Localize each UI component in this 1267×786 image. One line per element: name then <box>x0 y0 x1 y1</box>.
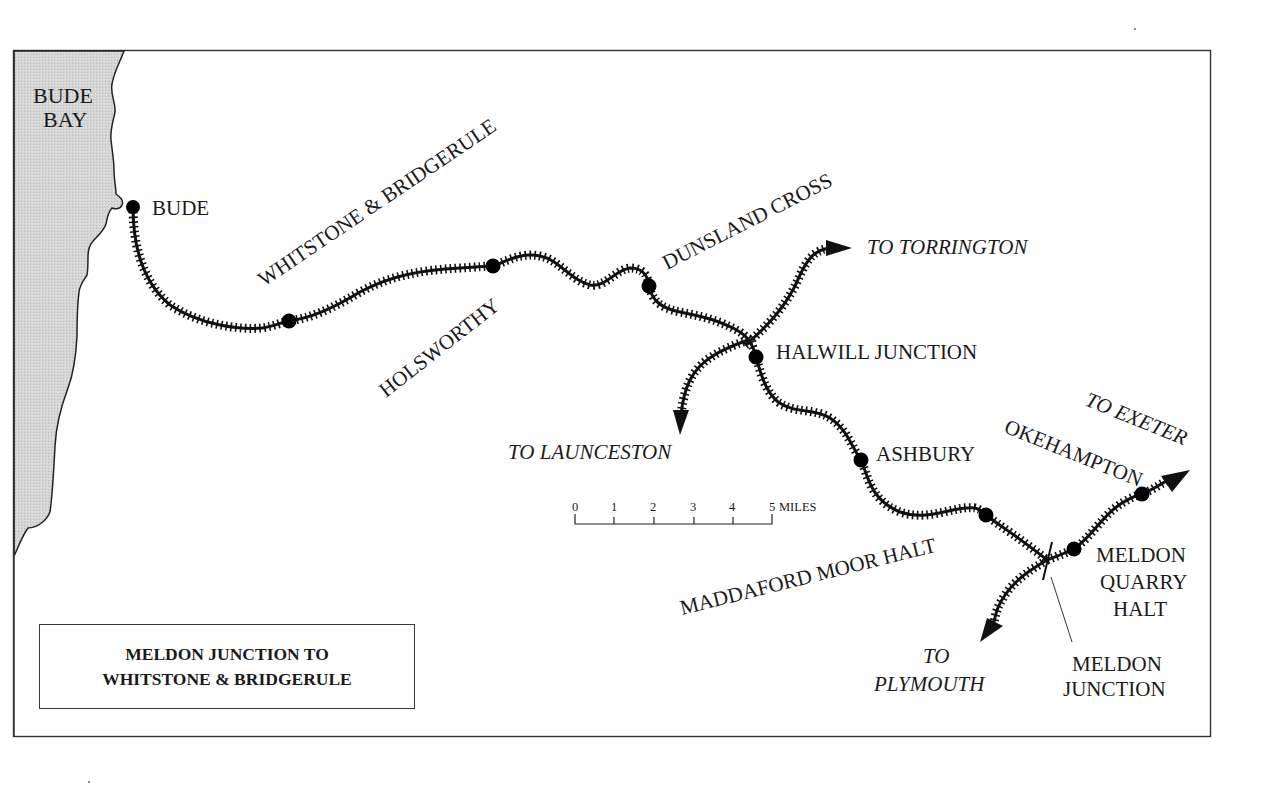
label-meldon-junction-line1: MELDON <box>1072 652 1162 676</box>
scale-tick-1: 1 <box>611 500 617 514</box>
station-dot-maddaford-moor-halt[interactable] <box>979 508 994 523</box>
station-dot-meldon-quarry-halt[interactable] <box>1067 542 1082 557</box>
label-ashbury: ASHBURY <box>876 442 975 466</box>
label-meldon-quarry-halt-line3: HALT <box>1113 597 1167 621</box>
label-to-plymouth-line1: TO <box>923 644 949 668</box>
station-dot-whitstone-bridgerule[interactable] <box>282 314 297 329</box>
station-dot-bude[interactable] <box>126 200 140 214</box>
scale-tick-0: 0 <box>572 500 578 514</box>
map-title-line1: MELDON JUNCTION TO <box>125 642 329 667</box>
bude-bay-label-line2: BAY <box>43 107 88 132</box>
scan-speck <box>88 781 90 783</box>
label-to-plymouth-line2: PLYMOUTH <box>873 672 986 696</box>
label-to-torrington: TO TORRINGTON <box>867 235 1028 259</box>
label-halwill-junction: HALWILL JUNCTION <box>776 340 977 364</box>
station-dot-holsworthy[interactable] <box>486 259 501 274</box>
scale-unit: MILES <box>779 500 817 514</box>
scan-speck <box>1134 28 1136 30</box>
station-dot-ashbury[interactable] <box>854 453 869 468</box>
map-title-box: MELDON JUNCTION TO WHITSTONE & BRIDGERUL… <box>39 624 415 709</box>
scale-tick-4: 4 <box>729 500 736 514</box>
label-to-launceston: TO LAUNCESTON <box>508 440 672 464</box>
station-dot-dunsland-cross[interactable] <box>642 279 657 294</box>
map-title-line2: WHITSTONE & BRIDGERULE <box>102 667 352 692</box>
station-dot-halwill-junction[interactable] <box>749 350 764 365</box>
scale-tick-2: 2 <box>650 500 656 514</box>
label-meldon-junction-line2: JUNCTION <box>1063 677 1166 701</box>
label-meldon-quarry-halt-line1: MELDON <box>1096 543 1186 567</box>
bude-bay-label-line1: BUDE <box>33 83 93 108</box>
scale-tick-3: 3 <box>690 500 696 514</box>
label-meldon-quarry-halt-line2: QUARRY <box>1100 570 1188 594</box>
scale-tick-5: 5 <box>769 500 775 514</box>
label-bude: BUDE <box>152 196 209 220</box>
